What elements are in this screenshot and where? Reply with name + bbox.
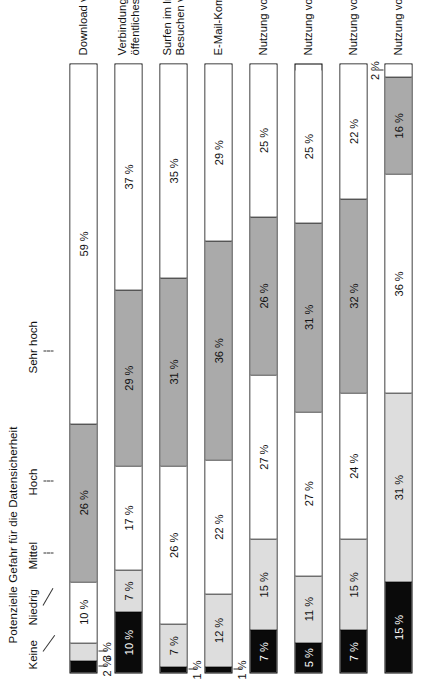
segment-value-label: 31 % (168, 359, 179, 384)
legend-tick-mittel (43, 552, 53, 553)
segment-value-label: 10 % (123, 630, 134, 655)
segment-value-label: 7 % (348, 642, 359, 661)
segment-value-label: 25 % (303, 134, 314, 159)
segment-value-label: 59 % (78, 231, 89, 256)
segment-value-label: 7 % (168, 636, 179, 655)
legend-leader-niedrig (42, 589, 56, 605)
category-label-line1: Verbindung mit dem Internet über ein (115, 0, 129, 55)
segment-value-label: 26 % (258, 283, 269, 308)
legend-item-keine: Keine (26, 640, 38, 669)
bar-segment-hoch: 26 % (70, 423, 96, 581)
category-label: Verbindung mit dem Internet über einöffe… (107, 0, 149, 55)
bar-segment-keine: 15 % (385, 581, 411, 672)
callout-line (233, 668, 241, 669)
bar-row: 7 %15 %24 %32 %22 %Nutzung von Messenger… (332, 0, 374, 673)
category-label: Surfen im Internet,Besuchen von Websites (152, 0, 194, 55)
bar-segment-niedrig: 7 % (115, 569, 141, 612)
segment-value-label: 31 % (303, 304, 314, 329)
stacked-bar: 1 %12 %22 %36 %29 % (204, 63, 232, 673)
bar-segment-mittel: 17 % (115, 465, 141, 568)
legend-item-mittel: Mittel (26, 542, 38, 569)
bar-segment-sehr: 59 % (70, 64, 96, 423)
callout-line (98, 650, 106, 651)
segment-value-label: 10 % (78, 599, 89, 624)
bar-row: 1 %7 %26 %31 %35 %Surfen im Internet,Bes… (152, 0, 194, 673)
bar-segment-sehr: 25 % (250, 64, 276, 216)
segment-value-label: 35 % (168, 158, 179, 183)
bar-segment-sehr: 2 % (385, 64, 411, 76)
category-label: Nutzung von Videokonferenzen (377, 0, 419, 55)
bar-segment-sehr: 37 % (115, 64, 141, 289)
bar-segment-hoch: 31 % (160, 277, 186, 465)
segment-value-label: 17 % (123, 505, 134, 530)
legend-leader-keine (42, 635, 56, 651)
segment-value-label: 29 % (213, 140, 224, 165)
segment-value-label: 12 % (213, 617, 224, 642)
segment-value-label: 27 % (258, 444, 269, 469)
segment-value-label: 5 % (303, 648, 314, 667)
category-label-line1: Download von Programmen/Daten (76, 0, 90, 55)
bar-row: 7 %15 %27 %26 %25 %Nutzung von online Ch… (242, 0, 284, 673)
stacked-bar: 5 %11 %27 %31 %25 % (294, 63, 322, 673)
bar-segment-niedrig: 7 % (160, 623, 186, 666)
segment-value-label: 7 % (258, 642, 269, 661)
bar-segment-mittel: 22 % (205, 459, 231, 593)
segment-value-label: 32 % (348, 283, 359, 308)
bar-segment-niedrig: 31 % (385, 392, 411, 580)
bar-segment-keine: 1 % (160, 666, 186, 672)
segment-value-label: 27 % (303, 481, 314, 506)
category-label: Download von Programmen/Daten (62, 0, 104, 55)
category-label-line2: öffentliches drahtloses Netzwerk (128, 0, 142, 55)
bar-segment-niedrig: 15 % (250, 538, 276, 629)
segment-value-label: 31 % (393, 475, 404, 500)
stacked-bar: 15 %31 %36 %16 %2 % (384, 63, 412, 673)
bar-segment-keine: 1 % (205, 666, 231, 672)
callout-line (188, 668, 196, 669)
stacked-bar: 2 %3 %10 %26 %59 % (69, 63, 97, 673)
bar-segment-hoch: 31 % (295, 222, 321, 410)
legend-item-niedrig: Niedrig (26, 589, 38, 625)
bar-list: 2 %3 %10 %26 %59 %Download von Programme… (62, 0, 421, 673)
segment-value-label: 16 % (393, 113, 404, 138)
bar-row: 5 %11 %27 %31 %25 %Nutzung von sozialen … (287, 0, 329, 673)
segment-value-label: 22 % (348, 118, 359, 143)
segment-value-label: 7 % (123, 581, 134, 600)
bar-segment-hoch: 36 % (205, 240, 231, 459)
bar-segment-hoch: 16 % (385, 76, 411, 173)
bar-segment-sehr: 35 % (160, 64, 186, 277)
category-label-line2: Besuchen von Websites (173, 0, 187, 55)
segment-value-label: 11 % (303, 597, 314, 621)
category-label-line1: Nutzung von sozialen Netzwerken (301, 0, 315, 55)
category-label: Nutzung von Messenger Programmen (332, 0, 374, 55)
segment-value-label: 15 % (348, 572, 359, 597)
segment-value-label: 15 % (393, 614, 404, 639)
segment-value-label: 24 % (348, 453, 359, 478)
bar-segment-keine: 5 % (295, 642, 321, 672)
category-label-line1: Nutzung von Videokonferenzen (391, 0, 405, 55)
bar-segment-niedrig: 12 % (205, 593, 231, 666)
segment-value-label: 37 % (123, 164, 134, 189)
segment-value-label: 26 % (78, 490, 89, 515)
bar-row: 10 %7 %17 %29 %37 %Verbindung mit dem In… (107, 0, 149, 673)
chart-legend: Keine Niedrig Mittel Hoch Sehr hoch (26, 0, 60, 673)
category-label-line1: E-Mail-Kommunikation (211, 0, 225, 55)
bar-segment-mittel: 27 % (250, 374, 276, 538)
bar-segment-niedrig: 3 % (70, 642, 96, 660)
bar-segment-mittel: 27 % (295, 411, 321, 575)
bar-segment-sehr: 29 % (205, 64, 231, 240)
category-label-line1: Surfen im Internet, (160, 0, 174, 55)
bar-segment-niedrig: 15 % (340, 538, 366, 629)
legend-item-sehr-hoch: Sehr hoch (26, 321, 38, 373)
segment-value-label: 36 % (213, 338, 224, 363)
bar-segment-hoch: 29 % (115, 289, 141, 465)
category-label: Nutzung von online Chats (242, 0, 284, 55)
category-label: E-Mail-Kommunikation (197, 0, 239, 55)
bar-row: 1 %12 %22 %36 %29 %E-Mail-Kommunikation (197, 0, 239, 673)
bar-segment-keine: 7 % (340, 629, 366, 672)
legend-item-hoch: Hoch (26, 468, 38, 495)
bar-segment-mittel: 10 % (70, 581, 96, 642)
bar-segment-niedrig: 11 % (295, 575, 321, 642)
category-label: Nutzung von sozialen Netzwerken (287, 0, 329, 55)
